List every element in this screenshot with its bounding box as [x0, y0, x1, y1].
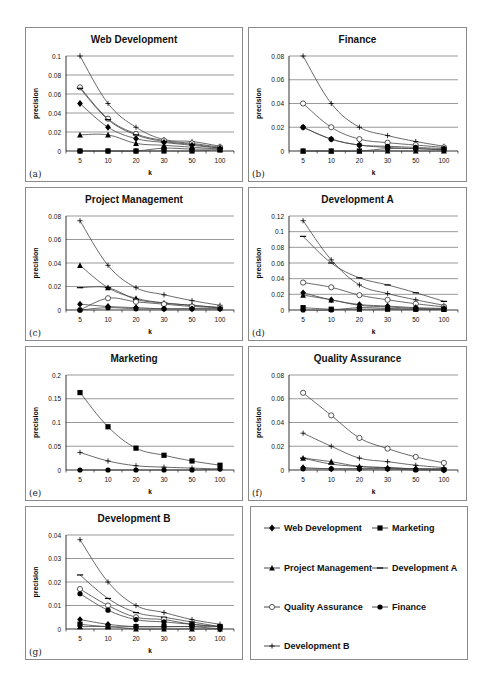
- legend: Web Development Marketing Project Manage…: [250, 506, 468, 660]
- svg-text:5: 5: [78, 157, 82, 164]
- svg-text:100: 100: [215, 316, 226, 323]
- svg-text:0.06: 0.06: [271, 395, 284, 402]
- svg-text:k: k: [148, 328, 152, 335]
- svg-text:0.1: 0.1: [52, 419, 61, 426]
- svg-text:0.12: 0.12: [271, 213, 284, 220]
- svg-text:0.08: 0.08: [271, 53, 284, 60]
- svg-text:30: 30: [160, 157, 168, 164]
- svg-text:50: 50: [188, 157, 196, 164]
- svg-text:10: 10: [328, 316, 336, 323]
- svg-text:precision: precision: [255, 88, 263, 119]
- svg-text:0: 0: [57, 626, 61, 633]
- svg-text:precision: precision: [255, 407, 263, 438]
- svg-text:100: 100: [215, 476, 226, 483]
- svg-text:0.06: 0.06: [271, 260, 284, 267]
- svg-text:precision: precision: [32, 247, 40, 278]
- svg-text:100: 100: [438, 316, 449, 323]
- diamond-icon: [263, 523, 281, 533]
- svg-text:0.1: 0.1: [52, 53, 61, 60]
- panel-label: (c): [29, 328, 41, 338]
- svg-text:precision: precision: [32, 566, 40, 597]
- svg-text:0.04: 0.04: [48, 532, 61, 539]
- svg-text:50: 50: [412, 476, 420, 483]
- svg-text:k: k: [148, 169, 152, 176]
- dash-icon: [371, 563, 389, 573]
- panel-web-development: Web Development 00.020.040.060.080.15102…: [25, 27, 243, 182]
- legend-label: Finance: [392, 602, 426, 612]
- svg-text:20: 20: [356, 316, 364, 323]
- legend-label: Development B: [284, 641, 350, 651]
- svg-text:30: 30: [160, 316, 168, 323]
- panel-development-a: Development A 00.020.040.060.080.10.1251…: [248, 187, 467, 341]
- svg-text:k: k: [372, 328, 376, 335]
- svg-text:30: 30: [160, 476, 168, 483]
- svg-text:0.08: 0.08: [271, 372, 284, 379]
- svg-text:30: 30: [384, 476, 392, 483]
- svg-text:0.15: 0.15: [48, 395, 61, 402]
- svg-text:0.03: 0.03: [48, 555, 61, 562]
- panel-finance: Finance 00.020.040.060.08510203050100kpr…: [248, 27, 467, 182]
- chart-plot: 00.020.040.060.08510203050100kprecision: [249, 28, 468, 183]
- svg-text:0: 0: [57, 467, 61, 474]
- svg-text:50: 50: [412, 157, 420, 164]
- svg-text:0.04: 0.04: [271, 275, 284, 282]
- svg-text:0.04: 0.04: [48, 260, 61, 267]
- panel-label: (b): [252, 169, 265, 179]
- svg-text:5: 5: [301, 316, 305, 323]
- legend-item-web-development: Web Development: [263, 523, 362, 533]
- svg-text:0.02: 0.02: [48, 129, 61, 136]
- svg-text:0.02: 0.02: [48, 283, 61, 290]
- svg-text:0.02: 0.02: [271, 124, 284, 131]
- svg-text:0.08: 0.08: [48, 213, 61, 220]
- legend-item-development-b: Development B: [263, 641, 350, 651]
- svg-text:0.1: 0.1: [275, 228, 284, 235]
- svg-text:0.05: 0.05: [48, 443, 61, 450]
- panel-project-management: Project Management 00.020.040.060.085102…: [25, 187, 243, 341]
- svg-text:k: k: [148, 647, 152, 654]
- svg-text:0: 0: [57, 307, 61, 314]
- svg-text:k: k: [148, 488, 152, 495]
- svg-text:50: 50: [412, 316, 420, 323]
- svg-text:0.08: 0.08: [271, 244, 284, 251]
- svg-text:precision: precision: [32, 88, 40, 119]
- chart-plot: 00.010.020.030.04510203050100kprecision: [26, 507, 244, 661]
- svg-text:0.04: 0.04: [271, 100, 284, 107]
- circle-filled-icon: [371, 602, 389, 612]
- svg-text:10: 10: [104, 316, 112, 323]
- legend-item-project-management: Project Management: [263, 563, 372, 573]
- svg-text:5: 5: [78, 316, 82, 323]
- svg-text:precision: precision: [32, 407, 40, 438]
- plus-icon: [263, 641, 281, 651]
- chart-plot: 00.020.040.060.080.1510203050100kprecisi…: [26, 28, 244, 183]
- svg-text:100: 100: [215, 635, 226, 642]
- chart-plot: 00.050.10.150.2510203050100kprecision: [26, 347, 244, 502]
- chart-plot: 00.020.040.060.080.10.12510203050100kpre…: [249, 188, 468, 342]
- svg-text:0.02: 0.02: [271, 443, 284, 450]
- panel-label: (e): [29, 488, 41, 498]
- svg-text:precision: precision: [255, 247, 263, 278]
- legend-item-quality-assurance: Quality Assurance: [263, 602, 363, 612]
- svg-text:30: 30: [384, 157, 392, 164]
- legend-item-finance: Finance: [371, 602, 426, 612]
- svg-text:10: 10: [328, 476, 336, 483]
- svg-text:5: 5: [301, 157, 305, 164]
- legend-label: Project Management: [284, 563, 372, 573]
- panel-label: (g): [29, 647, 42, 657]
- svg-text:0.2: 0.2: [52, 372, 61, 379]
- legend-label: Development A: [392, 563, 457, 573]
- panel-label: (d): [252, 328, 265, 338]
- svg-text:10: 10: [104, 635, 112, 642]
- svg-text:0.04: 0.04: [271, 419, 284, 426]
- svg-text:0.06: 0.06: [271, 76, 284, 83]
- square-icon: [371, 523, 389, 533]
- svg-text:0.08: 0.08: [48, 72, 61, 79]
- svg-text:10: 10: [104, 476, 112, 483]
- svg-text:0: 0: [280, 148, 284, 155]
- panel-label: (f): [252, 488, 262, 498]
- svg-text:0.02: 0.02: [48, 579, 61, 586]
- svg-text:k: k: [372, 169, 376, 176]
- svg-text:20: 20: [356, 476, 364, 483]
- svg-text:30: 30: [160, 635, 168, 642]
- triangle-icon: [263, 563, 281, 573]
- svg-text:k: k: [372, 488, 376, 495]
